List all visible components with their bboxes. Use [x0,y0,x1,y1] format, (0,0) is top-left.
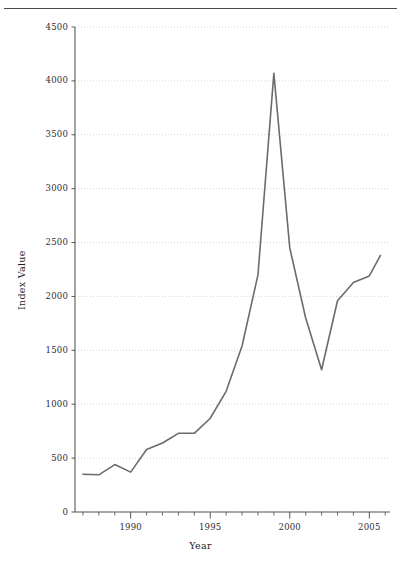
x-tick-label: 2005 [349,522,389,532]
y-tick-label: 4000 [20,75,68,85]
chart-figure: 050010001500200025003000350040004500 199… [0,0,401,566]
y-tick-label: 3000 [20,183,68,193]
x-tick-label: 1995 [190,522,230,532]
data-series-line [83,73,381,474]
y-tick-label: 1500 [20,345,68,355]
y-tick-label: 500 [20,453,68,463]
y-axis-title: Index Value [16,250,27,310]
gridlines-group [75,27,390,512]
y-tick-label: 2500 [20,237,68,247]
y-tick-label: 4500 [20,22,68,32]
x-tick-label: 2000 [270,522,310,532]
tick-marks-group [72,27,386,519]
y-tick-label: 3500 [20,129,68,139]
x-tick-label: 1990 [111,522,151,532]
y-tick-label: 2000 [20,291,68,301]
y-tick-label: 0 [20,507,68,517]
y-tick-label: 1000 [20,399,68,409]
x-axis-title: Year [0,540,401,551]
